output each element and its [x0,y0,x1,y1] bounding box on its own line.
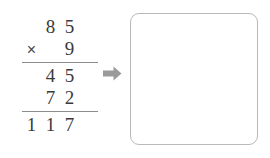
multiply-operator-icon: × [22,39,41,61]
multiplicand-row: 85 [41,16,79,38]
partial-2-digit-ones: 2 [60,87,79,109]
total-digit-ones: 7 [60,114,79,136]
partial-1-digit-tens: 4 [41,65,60,87]
long-multiplication-problem: 85 ×09 45 72 117 [0,0,104,158]
partial-1-digit-ones: 5 [60,65,79,87]
multiplier-digit-ones: 9 [60,38,79,60]
total-digit-hundreds: 1 [22,114,41,136]
partial-2-digit-tens: 7 [41,87,60,109]
multiplier-row: ×09 [22,38,79,60]
second-rule-line [22,111,98,112]
empty-answer-box[interactable] [130,13,258,145]
partial-product-row-tens: 72 [41,87,79,109]
right-arrow-icon [103,66,122,81]
multiplier-spacer-tens: 0 [41,38,60,60]
total-row: 117 [22,114,79,136]
total-digit-tens: 1 [41,114,60,136]
first-rule-line [22,62,98,63]
multiplicand-digit-tens: 8 [41,16,60,38]
partial-product-row-ones: 45 [41,65,79,87]
multiplicand-digit-ones: 5 [60,16,79,38]
worksheet-canvas: 85 ×09 45 72 117 [0,0,270,158]
